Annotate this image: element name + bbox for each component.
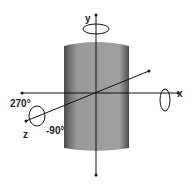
angle-270-label: 270° (10, 99, 31, 109)
x-axis-label: x (177, 89, 183, 99)
x-rotation-arrow-icon (160, 89, 170, 111)
y-axis-label: y (85, 14, 91, 24)
diagram-canvas (0, 0, 194, 184)
rotation-axes-diagram: y x z 270° -90° (0, 0, 194, 184)
angle-neg90-label: -90° (46, 126, 64, 136)
z-axis-label: z (23, 130, 28, 140)
